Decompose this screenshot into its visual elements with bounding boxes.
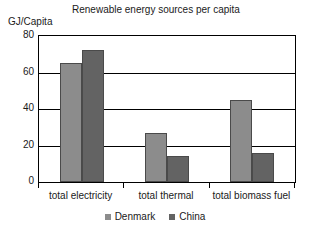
legend-item[interactable]: China <box>169 211 205 222</box>
x-axis-tick <box>294 183 295 188</box>
y-tick-label-40: 40 <box>4 103 34 113</box>
x-axis-label: total thermal <box>138 190 193 202</box>
bar <box>82 50 104 182</box>
bar <box>60 63 82 182</box>
bar <box>252 153 274 182</box>
y-tick-label-0: 0 <box>4 176 34 186</box>
y-tick-label-20: 20 <box>4 140 34 150</box>
y-tick-label-60: 60 <box>4 67 34 77</box>
chart-title: Renewable energy sources per capita <box>72 4 240 16</box>
x-axis-labels: total electricitytotal thermaltotal biom… <box>38 190 296 204</box>
legend-item[interactable]: Denmark <box>105 211 156 222</box>
legend-label: Denmark <box>115 211 156 222</box>
legend-label: China <box>179 211 205 222</box>
x-axis-tick <box>38 183 39 188</box>
square-marker-icon <box>105 214 111 220</box>
bar <box>230 100 252 182</box>
chart-legend: DenmarkChina <box>0 211 310 222</box>
x-axis-label: total electricity <box>49 190 112 202</box>
x-axis-tick <box>123 183 124 188</box>
x-axis-label: total biomass fuel <box>212 190 290 202</box>
bar <box>167 156 189 182</box>
x-axis-tick <box>209 183 210 188</box>
bar-group <box>39 36 124 182</box>
bar-group <box>210 36 295 182</box>
bars-layer <box>39 36 295 182</box>
y-tick-label-80: 80 <box>4 30 34 40</box>
square-marker-icon <box>169 214 175 220</box>
bar-group <box>124 36 209 182</box>
bar <box>145 133 167 182</box>
y-axis-tick-labels: 020406080 <box>0 35 34 183</box>
y-axis-title: GJ/Capita <box>8 16 52 28</box>
bar-chart: Renewable energy sources per capita GJ/C… <box>0 0 310 234</box>
